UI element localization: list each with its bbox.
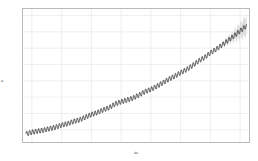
forecast-line bbox=[26, 24, 247, 136]
gridlines-group bbox=[23, 9, 249, 142]
y-tick-mark bbox=[22, 65, 23, 66]
y-tick-mark bbox=[22, 132, 23, 133]
x-tick-mark bbox=[212, 142, 213, 143]
x-tick-mark bbox=[92, 142, 93, 143]
x-axis-label: ds bbox=[134, 152, 138, 155]
x-tick-mark bbox=[62, 142, 63, 143]
x-tick-mark bbox=[182, 142, 183, 143]
y-axis-label: y bbox=[1, 79, 4, 81]
y-tick-mark bbox=[22, 82, 23, 83]
x-tick-mark bbox=[152, 142, 153, 143]
forecast-chart-figure: y ds 32034036038040042044046019601970198… bbox=[0, 0, 258, 161]
y-tick-mark bbox=[22, 49, 23, 50]
chart-canvas bbox=[23, 9, 249, 142]
y-tick-mark bbox=[22, 16, 23, 17]
y-tick-mark bbox=[22, 98, 23, 99]
x-tick-mark bbox=[242, 142, 243, 143]
x-tick-mark bbox=[32, 142, 33, 143]
x-tick-mark bbox=[122, 142, 123, 143]
plot-area: 3203403603804004204404601960197019801990… bbox=[22, 8, 250, 143]
y-tick-mark bbox=[22, 32, 23, 33]
y-tick-mark bbox=[22, 115, 23, 116]
